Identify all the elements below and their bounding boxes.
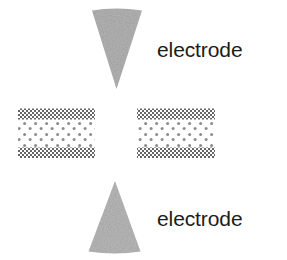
right-membrane-bottom-band [137,148,215,159]
top-electrode-cone [92,9,142,90]
left-membrane-interior-dots [18,119,95,149]
bottom-electrode [89,181,141,254]
bottom-electrode-cone [89,181,141,254]
right-membrane-interior-dots [137,119,215,149]
electrode-membrane-diagram: electrode electrode [0,0,287,260]
bottom-electrode-label: electrode [157,208,243,229]
top-electrode [92,9,142,90]
left-membrane [18,108,95,158]
left-membrane-top-band [18,109,95,120]
left-membrane-bottom-band [18,148,95,159]
top-electrode-label: electrode [157,39,243,60]
right-membrane [137,108,215,158]
diagram-canvas [0,0,287,260]
right-membrane-top-band [137,109,215,120]
